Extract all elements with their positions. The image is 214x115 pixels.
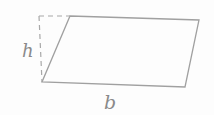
parallelogram-figure: h b [0, 0, 214, 115]
parallelogram-diagram-svg: h b [0, 0, 214, 115]
height-dashed-line [39, 16, 42, 82]
base-label: b [104, 91, 116, 113]
height-label: h [22, 40, 34, 61]
parallelogram-outline [42, 16, 199, 87]
